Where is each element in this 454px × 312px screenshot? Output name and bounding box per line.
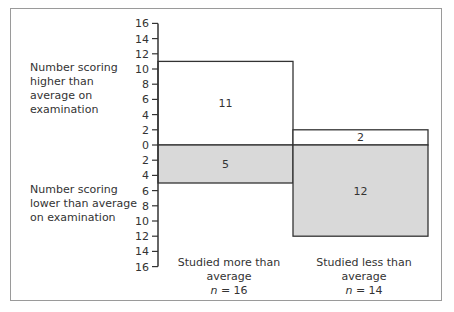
y-tick-label: 4: [142, 109, 149, 122]
bar-value-label: 11: [219, 97, 233, 110]
y-tick-label: 2: [142, 154, 149, 167]
y-tick-label: 6: [142, 185, 149, 198]
y-tick-label: 16: [135, 17, 149, 30]
y-tick-label: 8: [142, 78, 149, 91]
y-tick-label: 0: [142, 139, 149, 152]
y-label-bottom: Number scoring lower than average on exa…: [30, 183, 142, 225]
y-tick-label: 12: [135, 48, 149, 61]
y-tick-label: 4: [142, 169, 149, 182]
y-tick-label: 8: [142, 200, 149, 213]
y-tick-label: 2: [142, 124, 149, 137]
bar-value-label: 12: [354, 185, 368, 198]
bar-value-label: 2: [357, 131, 364, 144]
y-tick-label: 14: [135, 33, 149, 46]
category-label-studied-less: Studied less than average n = 14: [300, 256, 428, 298]
y-tick-label: 14: [135, 245, 149, 258]
y-label-top: Number scoring higher than average on ex…: [30, 61, 140, 117]
y-tick-label: 12: [135, 230, 149, 243]
bar-value-label: 5: [222, 158, 229, 171]
y-tick-label: 16: [135, 261, 149, 274]
category-label-studied-more: Studied more than average n = 16: [165, 256, 293, 298]
y-tick-label: 6: [142, 93, 149, 106]
